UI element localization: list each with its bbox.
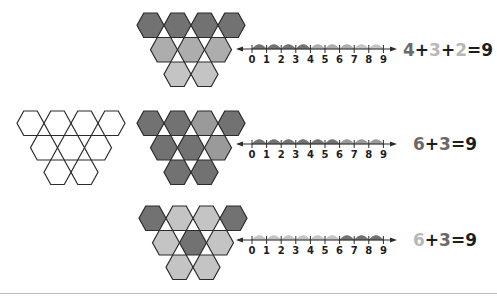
tick-label: 2: [278, 245, 285, 256]
tick-label: 1: [263, 245, 270, 256]
jump-arc-icon: [252, 236, 267, 241]
equation-term: +: [425, 230, 439, 250]
jump-arc-icon: [354, 236, 369, 241]
tick-label: 7: [351, 245, 358, 256]
equation-term: =9: [451, 230, 477, 250]
jump-arc-icon: [310, 236, 325, 241]
tick-label: 8: [365, 245, 372, 256]
divider-line: [0, 293, 497, 294]
tick-label: 5: [322, 245, 329, 256]
tick-label: 6: [336, 245, 343, 256]
jump-arc-icon: [296, 236, 311, 241]
jump-arc-icon: [281, 236, 296, 241]
tick-label: 9: [380, 245, 387, 256]
jump-arc-icon: [340, 236, 355, 241]
tick-label: 4: [307, 245, 314, 256]
jump-arc-icon: [369, 236, 384, 241]
arrow-left-icon: [236, 238, 243, 243]
tick-label: 0: [249, 245, 256, 256]
equation-term: 6: [413, 230, 425, 250]
equation-bottom: 6+3=9: [413, 230, 477, 250]
jump-arc-icon: [267, 236, 282, 241]
jump-arc-icon: [325, 236, 340, 241]
arrow-right-icon: [390, 238, 397, 243]
tick-label: 3: [292, 245, 299, 256]
equation-term: 3: [439, 230, 451, 250]
